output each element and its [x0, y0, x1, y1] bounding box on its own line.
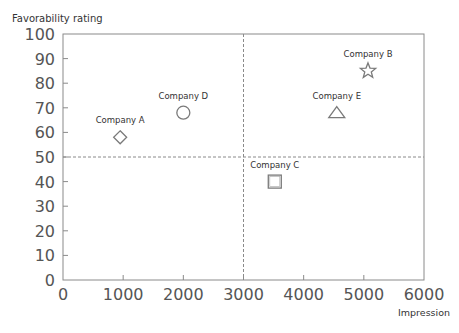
scatter-chart: Favorability rating Impression 010203040… [0, 0, 459, 333]
plot-area: 0102030405060708090100010002000300040005… [24, 25, 444, 304]
square-marker-inner [270, 177, 280, 187]
y-tick-label: 90 [35, 50, 55, 69]
diamond-marker-icon [114, 131, 127, 144]
x-tick-label: 5000 [343, 285, 384, 304]
point-label: Company B [344, 49, 393, 59]
y-tick-label: 80 [35, 74, 55, 93]
x-tick-label: 1000 [103, 285, 144, 304]
y-tick-label: 60 [35, 123, 55, 142]
y-tick-label: 0 [45, 271, 55, 290]
point-label: Company D [158, 91, 208, 101]
x-tick-label: 4000 [283, 285, 324, 304]
x-tick-label: 3000 [223, 285, 264, 304]
y-axis-title: Favorability rating [12, 13, 103, 24]
point-label: Company E [313, 91, 362, 101]
x-tick-label: 2000 [163, 285, 204, 304]
x-tick-label: 0 [58, 285, 68, 304]
y-tick-label: 100 [24, 25, 55, 44]
circle-marker-icon [177, 106, 190, 119]
y-tick-label: 20 [35, 222, 55, 241]
x-axis-title: Impression [398, 307, 450, 318]
y-tick-label: 10 [35, 246, 55, 265]
star-marker-icon [360, 63, 375, 78]
x-tick-label: 6000 [404, 285, 445, 304]
triangle-marker-icon [329, 107, 345, 118]
point-label: Company C [250, 160, 299, 170]
y-tick-label: 70 [35, 99, 55, 118]
y-tick-label: 30 [35, 197, 55, 216]
y-tick-label: 40 [35, 173, 55, 192]
y-tick-label: 50 [35, 148, 55, 167]
square-marker-icon [268, 175, 281, 188]
point-label: Company A [96, 115, 145, 125]
